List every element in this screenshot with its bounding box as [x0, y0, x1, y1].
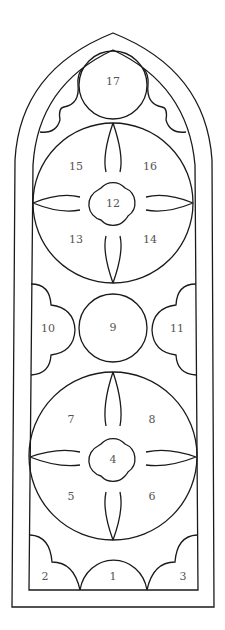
upper-petal-top	[105, 123, 121, 172]
region-label-7: 7	[68, 413, 75, 426]
region-label-11: 11	[170, 322, 184, 335]
region-label-13: 13	[69, 233, 83, 246]
inner-frame	[29, 50, 198, 590]
region-label-6: 6	[149, 490, 156, 503]
region-label-5: 5	[68, 490, 75, 503]
region-label-3: 3	[180, 570, 187, 583]
region-labels: 1 2 3 4 5 6 7 8 9 10 11 12 13 14 15 16 1…	[41, 75, 187, 583]
upper-petal-left	[33, 195, 80, 211]
region-2-lobe	[30, 535, 80, 590]
region-label-16: 16	[143, 160, 157, 173]
region-label-8: 8	[149, 413, 156, 426]
region-label-15: 15	[69, 160, 83, 173]
lower-petal-top	[105, 372, 121, 426]
region-label-14: 14	[143, 233, 157, 246]
region-label-12: 12	[106, 197, 120, 210]
region-label-10: 10	[41, 322, 55, 335]
region-3-lobe	[147, 535, 197, 590]
lower-petal-bottom	[105, 492, 121, 540]
region-label-1: 1	[110, 570, 117, 583]
upper-petal-right	[146, 195, 193, 211]
lower-petal-right	[146, 450, 196, 465]
lower-petal-left	[30, 450, 80, 465]
region-label-4: 4	[110, 453, 117, 466]
upper-petal-bottom	[105, 236, 121, 283]
stained-glass-window-diagram: 1 2 3 4 5 6 7 8 9 10 11 12 13 14 15 16 1…	[0, 0, 225, 630]
region-label-2: 2	[42, 570, 49, 583]
region-label-17: 17	[106, 75, 120, 88]
region-label-9: 9	[110, 321, 117, 334]
